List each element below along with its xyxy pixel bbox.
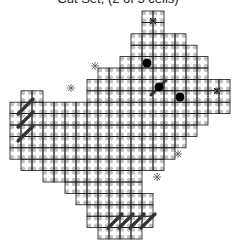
- lattice-dot: [109, 102, 113, 106]
- lattice-dot: [72, 155, 76, 159]
- lattice-dot: [226, 91, 230, 95]
- lattice-dot: [186, 45, 190, 49]
- lattice-dot: [116, 201, 120, 205]
- lattice-dot: [171, 109, 175, 113]
- lattice-dot: [61, 144, 65, 148]
- point-dot-icon: [155, 83, 164, 92]
- lattice-dot: [98, 189, 102, 193]
- lattice-dot: [76, 170, 80, 174]
- lattice-dot: [226, 79, 230, 83]
- lattice-dot: [193, 98, 197, 102]
- lattice-dot: [149, 159, 153, 163]
- lattice-dot: [204, 68, 208, 72]
- lattice-dot: [105, 178, 109, 182]
- lattice-dot: [142, 102, 146, 106]
- lattice-dot: [175, 132, 179, 136]
- lattice-dot: [72, 132, 76, 136]
- lattice-dot: [127, 144, 131, 148]
- lattice-dot: [72, 159, 76, 163]
- lattice-dot: [171, 136, 175, 140]
- lattice-dot: [83, 148, 87, 152]
- lattice-dot: [153, 68, 157, 72]
- lattice-dot: [43, 159, 47, 163]
- lattice-dot: [142, 159, 146, 163]
- lattice-dot: [43, 148, 47, 152]
- lattice-dot: [109, 216, 113, 220]
- lattice-dot: [153, 56, 157, 60]
- lattice-dot: [142, 68, 146, 72]
- lattice-dot: [72, 113, 76, 117]
- lattice-dot: [10, 144, 14, 148]
- lattice-dot: [39, 121, 43, 125]
- lattice-dot: [120, 113, 124, 117]
- lattice-dot: [109, 178, 113, 182]
- lattice-dot: [105, 148, 109, 152]
- lattice-dot: [204, 87, 208, 91]
- lattice-dot: [105, 87, 109, 91]
- lattice-dot: [127, 91, 131, 95]
- lattice-dot: [83, 193, 87, 197]
- lattice-dot: [138, 98, 142, 102]
- lattice-dot: [94, 98, 98, 102]
- lattice-dot: [160, 159, 164, 163]
- lattice-dot: [116, 87, 120, 91]
- lattice-dot: [28, 144, 32, 148]
- lattice-dot: [28, 155, 32, 159]
- lattice-dot: [87, 182, 91, 186]
- lattice-dot: [153, 75, 157, 79]
- lattice-dot: [142, 113, 146, 117]
- lattice-dot: [109, 212, 113, 216]
- lattice-dot: [43, 166, 47, 170]
- lattice-dot: [10, 155, 14, 159]
- lattice-dot: [164, 125, 168, 129]
- lattice-dot: [21, 155, 25, 159]
- lattice-dot: [215, 98, 219, 102]
- lattice-dot: [109, 136, 113, 140]
- lattice-dot: [39, 125, 43, 129]
- lattice-dot: [105, 155, 109, 159]
- lattice-dot: [10, 109, 14, 113]
- lattice-dot: [208, 91, 212, 95]
- lattice-dot: [142, 87, 146, 91]
- asterisk-icon: [153, 173, 161, 181]
- lattice-dot: [116, 109, 120, 113]
- lattice-dot: [98, 193, 102, 197]
- lattice-dot: [98, 132, 102, 136]
- lattice-dot: [94, 87, 98, 91]
- lattice-dot: [219, 79, 223, 83]
- lattice-dot: [94, 125, 98, 129]
- lattice-dot: [120, 79, 124, 83]
- lattice-dot: [131, 52, 135, 56]
- lattice-dot: [193, 45, 197, 49]
- lattice-dot: [50, 136, 54, 140]
- lattice-dot: [215, 109, 219, 113]
- lattice-dot: [83, 159, 87, 163]
- lattice-dot: [83, 144, 87, 148]
- lattice-dot: [138, 56, 142, 60]
- lattice-dot: [43, 178, 47, 182]
- lattice-dot: [116, 75, 120, 79]
- lattice-dot: [149, 125, 153, 129]
- lattice-dot: [109, 205, 113, 209]
- lattice-dot: [98, 113, 102, 117]
- lattice-dot: [39, 166, 43, 170]
- lattice-dot: [116, 193, 120, 197]
- lattice-dot: [61, 125, 65, 129]
- lattice-dot: [171, 52, 175, 56]
- lattice-dot: [105, 136, 109, 140]
- lattice-dot: [142, 22, 146, 26]
- lattice-dot: [21, 166, 25, 170]
- lattice-dot: [94, 201, 98, 205]
- lattice-dot: [186, 87, 190, 91]
- lattice-dot: [149, 132, 153, 136]
- lattice-dot: [120, 235, 124, 239]
- lattice-dot: [39, 144, 43, 148]
- lattice-dot: [94, 223, 98, 227]
- lattice-dot: [72, 125, 76, 129]
- lattice-dot: [98, 170, 102, 174]
- lattice-dot: [127, 113, 131, 117]
- lattice-dot: [39, 132, 43, 136]
- lattice-dot: [98, 227, 102, 231]
- lattice-dot: [171, 102, 175, 106]
- lattice-dot: [164, 155, 168, 159]
